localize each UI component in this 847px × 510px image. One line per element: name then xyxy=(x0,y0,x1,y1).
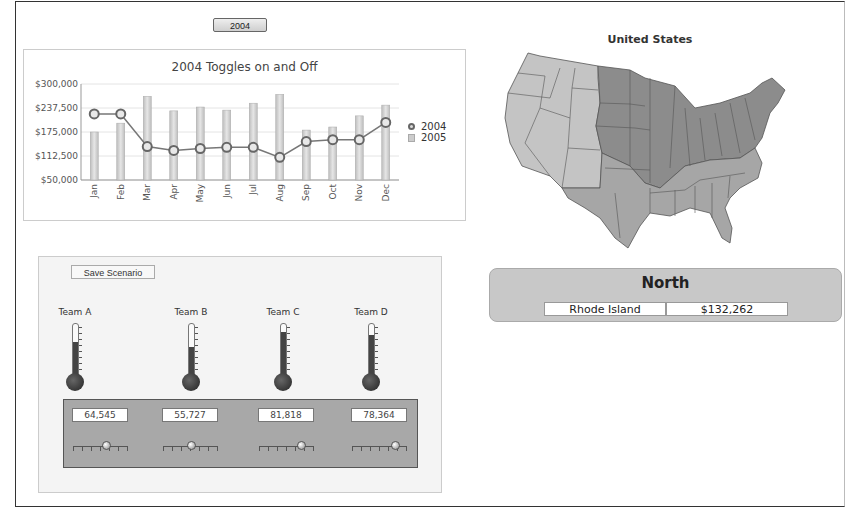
line-marker-icon xyxy=(408,123,415,130)
gauge-tick xyxy=(287,333,290,334)
y-tick-label: $50,000 xyxy=(41,175,78,185)
gauge-tick xyxy=(375,327,378,328)
map-title: United States xyxy=(560,33,740,46)
gauge-tick xyxy=(287,345,290,346)
y-tick-label: $237,500 xyxy=(35,103,78,113)
gauge-tick xyxy=(375,357,378,358)
line-point-2004[interactable] xyxy=(196,144,205,153)
gauge-tick xyxy=(287,369,290,370)
y-tick-label: $175,000 xyxy=(35,127,78,137)
line-point-2004[interactable] xyxy=(302,137,311,146)
x-tick-label: Oct xyxy=(328,184,338,200)
team-label: Team B xyxy=(161,307,221,317)
line-point-2004[interactable] xyxy=(328,135,337,144)
x-tick-label: Nov xyxy=(354,183,364,201)
gauge-tick xyxy=(287,339,290,340)
x-tick-label: Feb xyxy=(116,184,126,200)
thermometer-icon xyxy=(356,319,386,391)
gauge-tick xyxy=(195,363,198,364)
bar-2005[interactable] xyxy=(249,103,257,180)
scenario-panel: Save Scenario Team A Team B Team C Team … xyxy=(38,256,442,493)
y-tick-label: $112,500 xyxy=(35,151,78,161)
thermometer-icon xyxy=(268,319,298,391)
slider-thumb[interactable] xyxy=(102,441,111,450)
slider-thumb[interactable] xyxy=(187,441,196,450)
x-tick-label: Jul xyxy=(248,184,258,196)
team-gauge: Team B xyxy=(161,307,221,391)
gauge-tick xyxy=(195,351,198,352)
gauge-tick xyxy=(375,345,378,346)
gauge-tick xyxy=(195,345,198,346)
x-tick-label: Mar xyxy=(142,184,152,201)
gauge-tick xyxy=(79,351,82,352)
line-point-2004[interactable] xyxy=(90,109,99,118)
region-name: North xyxy=(490,274,841,292)
region-detail-row: Rhode Island $132,262 xyxy=(544,302,788,316)
region-summary-card: North Rhode Island $132,262 xyxy=(489,268,842,322)
bar-swatch-icon xyxy=(408,134,415,142)
gauge-tick xyxy=(287,351,290,352)
bar-2005[interactable] xyxy=(90,132,98,180)
team-label: Team A xyxy=(45,307,105,317)
x-tick-label: Dec xyxy=(381,184,391,201)
gauge-tick xyxy=(287,327,290,328)
team-value-field[interactable]: 55,727 xyxy=(162,408,218,422)
gauge-tick xyxy=(375,339,378,340)
x-tick-label: Jun xyxy=(222,184,232,199)
line-point-2004[interactable] xyxy=(275,153,284,162)
line-point-2004[interactable] xyxy=(169,146,178,155)
slider-thumb[interactable] xyxy=(391,441,400,450)
gauge-tick xyxy=(375,351,378,352)
team-value-field[interactable]: 78,364 xyxy=(351,408,407,422)
state-name-cell: Rhode Island xyxy=(544,302,666,316)
x-tick-label: Apr xyxy=(169,184,179,200)
team-value-field[interactable]: 64,545 xyxy=(72,408,128,422)
line-point-2004[interactable] xyxy=(355,135,364,144)
bar-2005[interactable] xyxy=(143,96,151,180)
x-tick-label: May xyxy=(195,183,205,202)
gauge-tick xyxy=(287,357,290,358)
team-label: Team C xyxy=(253,307,313,317)
line-point-2004[interactable] xyxy=(143,142,152,151)
bar-2005[interactable] xyxy=(117,123,125,180)
team-slider[interactable] xyxy=(73,440,127,454)
team-slider[interactable] xyxy=(163,440,217,454)
gauge-tick xyxy=(375,363,378,364)
x-tick-label: Jan xyxy=(89,184,99,199)
thermometer-icon xyxy=(60,319,90,391)
gauge-tick xyxy=(195,357,198,358)
gauge-tick xyxy=(79,363,82,364)
legend-item-2005[interactable]: 2005 xyxy=(408,132,446,143)
state-value-cell: $132,262 xyxy=(666,302,788,316)
gauge-tick xyxy=(79,333,82,334)
bar-2005[interactable] xyxy=(276,94,284,180)
team-slider[interactable] xyxy=(352,440,406,454)
line-point-2004[interactable] xyxy=(381,118,390,127)
line-point-2004[interactable] xyxy=(222,143,231,152)
line-point-2004[interactable] xyxy=(249,143,258,152)
bar-2005[interactable] xyxy=(382,105,390,180)
y-tick-label: $300,000 xyxy=(35,79,78,89)
slider-panel: 64,54555,72781,81878,364 xyxy=(63,399,418,468)
us-map[interactable] xyxy=(500,48,800,253)
revenue-chart-panel: 2004 Toggles on and Off $300,000$237,500… xyxy=(23,49,466,221)
chart-legend: 2004 2005 xyxy=(408,121,446,143)
gauge-tick xyxy=(195,339,198,340)
gauge-tick xyxy=(79,345,82,346)
line-point-2004[interactable] xyxy=(116,109,125,118)
gauge-tick xyxy=(287,363,290,364)
team-gauge: Team A xyxy=(45,307,105,391)
save-scenario-button[interactable]: Save Scenario xyxy=(71,265,155,279)
gauge-tick xyxy=(79,327,82,328)
team-value-field[interactable]: 81,818 xyxy=(258,408,314,422)
team-gauge: Team C xyxy=(253,307,313,391)
team-slider[interactable] xyxy=(259,440,313,454)
legend-item-2004[interactable]: 2004 xyxy=(408,121,446,132)
revenue-chart: $300,000$237,500$175,000$112,500$50,000J… xyxy=(24,50,467,222)
x-tick-label: Aug xyxy=(275,184,285,202)
gauge-tick xyxy=(375,369,378,370)
gauge-tick xyxy=(79,357,82,358)
bar-2005[interactable] xyxy=(355,116,363,180)
gauge-tick xyxy=(79,369,82,370)
year-toggle-button[interactable]: 2004 xyxy=(213,18,267,32)
